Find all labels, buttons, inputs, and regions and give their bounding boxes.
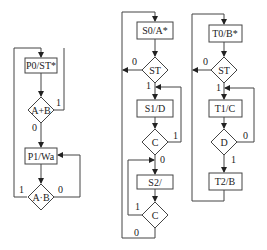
state-label-s0: S0/A* [142, 25, 168, 36]
edge-label-ab-yes: 1 [19, 184, 24, 195]
decision-label-d: D [220, 137, 227, 148]
edge-label-c2-yes: 1 [135, 201, 140, 212]
state-label-t2: T2/B [215, 176, 236, 187]
edge-label-c1-yes: 1 [173, 130, 178, 141]
state-label-t0: T0/B* [212, 28, 238, 39]
middle-chart: S0/A* ST 0 1 S1/D C 1 0 S2/ C 1 0 [122, 12, 181, 238]
edge-label-ab-no: 0 [58, 184, 63, 195]
edge-label-st-right-yes: 1 [216, 82, 221, 93]
decision-label-c1: C [152, 137, 159, 148]
decision-label-aplusb: A+B [31, 105, 51, 116]
edge-label-c2-no: 0 [134, 227, 139, 238]
edge-label-d-no: 0 [243, 130, 248, 141]
edge-label-c1-no: 0 [160, 154, 165, 165]
asm-diagram: P0/ST* A+B 1 0 P1/Wa A·B 1 0 S0/A* ST 0 … [0, 0, 267, 250]
state-label-p1: P1/Wa [28, 151, 55, 162]
left-chart: P0/ST* A+B 1 0 P1/Wa A·B 1 0 [14, 48, 80, 210]
state-label-s2: S2/ [148, 177, 162, 188]
decision-label-ab: A·B [32, 192, 50, 203]
decision-label-st-middle: ST [149, 65, 161, 76]
edge-label-st-middle-no: 0 [132, 56, 137, 67]
state-label-p0: P0/ST* [26, 60, 56, 71]
edge-label-d-yes: 1 [231, 154, 236, 165]
right-chart: T0/B* ST 0 1 T1/C D 0 1 T2/B [192, 14, 254, 201]
decision-label-c2: C [152, 210, 159, 221]
state-label-s1: S1/D [145, 103, 166, 114]
edge-label-aplusb-no: 0 [32, 122, 37, 133]
edge-label-st-middle-yes: 1 [146, 80, 151, 91]
edge-label-st-right-no: 0 [203, 56, 208, 67]
decision-label-st-right: ST [218, 65, 230, 76]
edge-label-aplusb-yes: 1 [56, 97, 61, 108]
state-label-t1: T1/C [215, 103, 236, 114]
